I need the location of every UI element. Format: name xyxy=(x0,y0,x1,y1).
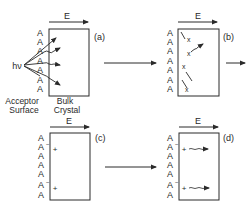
exciton-tracks xyxy=(181,32,203,88)
hole: + xyxy=(182,184,187,193)
panel-label: (d) xyxy=(223,133,234,143)
ionized-acceptor: A xyxy=(38,180,44,190)
acceptor: A xyxy=(37,84,43,94)
hole: + xyxy=(53,184,58,193)
photon-label: hν xyxy=(12,61,22,71)
surface-label: Surface xyxy=(9,105,39,115)
bulk-label: Crystal xyxy=(54,105,81,115)
exciton: x xyxy=(182,63,186,70)
exciton: x xyxy=(187,36,191,43)
panel-label: (c) xyxy=(95,133,106,143)
acceptor-column: A A A A A A A xyxy=(167,28,173,94)
hole: + xyxy=(182,145,187,154)
acceptor-column: A A A A A A A xyxy=(37,28,43,94)
exciton: x xyxy=(185,86,189,93)
negative-charge: − xyxy=(175,179,179,185)
negative-charge: − xyxy=(46,179,50,185)
field-label: E xyxy=(64,11,70,21)
acceptor: A xyxy=(38,190,44,200)
hole-drift-arrows-icon xyxy=(189,149,209,189)
panel-b: E (b) A A A A A A A x x x x xyxy=(167,11,234,96)
acceptor-column: A A − A A A A − A xyxy=(38,133,50,200)
panel-label: (b) xyxy=(223,32,234,42)
negative-charge: − xyxy=(175,141,179,147)
negative-charge: − xyxy=(46,141,50,147)
panel-a: E (a) A A A A A A A hν Acceptor Surface … xyxy=(5,11,105,115)
panel-d: E (d) A A − A A A A − A + + xyxy=(167,116,234,200)
acceptor: A xyxy=(167,65,173,75)
hole: + xyxy=(53,145,58,154)
field-label: E xyxy=(195,11,201,21)
field-label: E xyxy=(66,116,72,126)
panel-c: E (c) A A − A A A A − A + + xyxy=(38,116,106,200)
diagram-canvas: E (a) A A A A A A A hν Acceptor Surface … xyxy=(0,0,249,211)
field-label: E xyxy=(195,116,201,126)
acceptor: A xyxy=(38,169,44,179)
exciton: x xyxy=(187,50,191,57)
acceptor: A xyxy=(167,169,173,179)
acceptor: A xyxy=(167,46,173,56)
acceptor-column: A A − A A A A − A xyxy=(167,133,179,200)
acceptor: A xyxy=(167,190,173,200)
acceptor: A xyxy=(167,84,173,94)
panel-label: (a) xyxy=(94,32,105,42)
ionized-acceptor: A xyxy=(167,180,173,190)
